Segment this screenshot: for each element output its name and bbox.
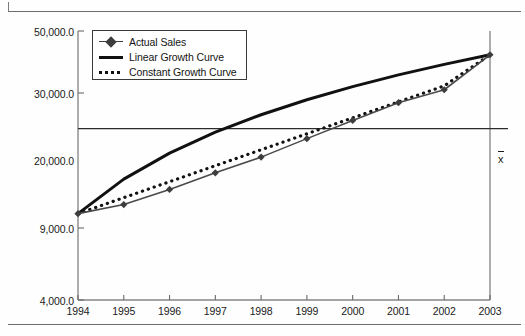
y-axis-label-50000: 50,000.0 <box>14 26 74 38</box>
x-axis-label-1997: 1997 <box>195 305 235 317</box>
scanned-page: 50,000.0 30,000.0 20,000.0 9,000.0 4,000… <box>0 0 525 336</box>
x-axis-label-1995: 1995 <box>104 305 144 317</box>
dotted-line-key-icon <box>98 65 124 79</box>
legend-item-linear-growth-curve: Linear Growth Curve <box>98 49 241 64</box>
x-axis-label-1998: 1998 <box>241 305 281 317</box>
chart-canvas <box>0 0 525 336</box>
y-axis-label-30000: 30,000.0 <box>14 88 74 100</box>
chart-legend: Actual Sales Linear Growth Curve Constan… <box>92 30 247 80</box>
x-tick-group <box>78 295 490 300</box>
sales-growth-chart: 50,000.0 30,000.0 20,000.0 9,000.0 4,000… <box>0 0 525 336</box>
legend-item-constant-growth-curve: Constant Growth Curve <box>98 64 241 79</box>
data-point-marker <box>349 117 356 124</box>
y-axis-label-20000: 20,000.0 <box>14 155 74 167</box>
x-axis-label-1999: 1999 <box>287 305 327 317</box>
legend-label-constant-growth-curve: Constant Growth Curve <box>129 66 237 78</box>
mean-overbar <box>498 151 504 152</box>
x-axis-label-2000: 2000 <box>333 305 373 317</box>
y-axis-label-9000: 9,000.0 <box>14 223 74 235</box>
data-point-marker <box>120 201 127 208</box>
x-axis-label-2003: 2003 <box>470 305 510 317</box>
data-point-marker <box>258 154 265 161</box>
legend-label-actual-sales: Actual Sales <box>129 36 186 48</box>
data-point-marker <box>303 135 310 142</box>
mean-symbol-letter: x <box>498 153 504 165</box>
diamond-line-key-icon <box>98 35 124 49</box>
legend-item-actual-sales: Actual Sales <box>98 34 241 49</box>
x-axis-label-1996: 1996 <box>150 305 190 317</box>
thick-line-key-icon <box>98 50 124 64</box>
mean-symbol: x <box>498 151 504 165</box>
x-axis-label-2001: 2001 <box>378 305 418 317</box>
data-point-marker <box>212 169 219 176</box>
x-axis-label-1994: 1994 <box>58 305 98 317</box>
legend-label-linear-growth-curve: Linear Growth Curve <box>129 51 224 63</box>
data-point-marker <box>166 186 173 193</box>
x-axis-label-2002: 2002 <box>424 305 464 317</box>
